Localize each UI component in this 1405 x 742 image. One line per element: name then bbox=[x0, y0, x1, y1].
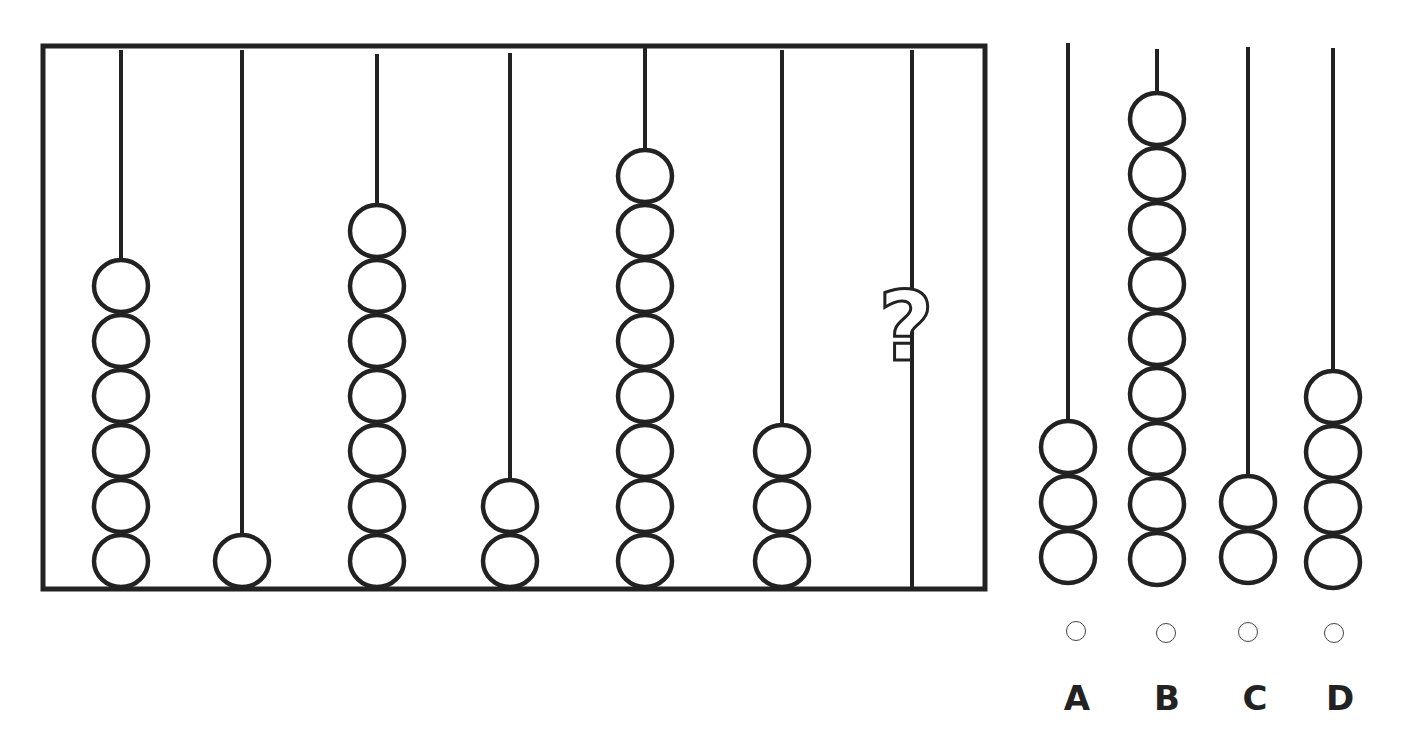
option-c-label: C bbox=[1235, 678, 1275, 718]
bead bbox=[1221, 531, 1275, 583]
bead bbox=[94, 260, 148, 312]
abacus-drawing: ? bbox=[0, 0, 1405, 742]
bead bbox=[618, 425, 672, 477]
option-b-label: B bbox=[1147, 678, 1187, 718]
bead bbox=[618, 315, 672, 367]
option-b-radio[interactable] bbox=[1156, 623, 1176, 643]
option-c-radio[interactable] bbox=[1238, 622, 1258, 642]
bead bbox=[1130, 478, 1184, 530]
bead bbox=[1306, 536, 1360, 588]
bead bbox=[1130, 93, 1184, 145]
bead bbox=[618, 150, 672, 202]
bead bbox=[755, 480, 809, 532]
bead bbox=[1041, 476, 1095, 528]
bead bbox=[1306, 371, 1360, 423]
bead bbox=[1130, 258, 1184, 310]
bead bbox=[350, 205, 404, 257]
bead bbox=[755, 425, 809, 477]
bead bbox=[1041, 421, 1095, 473]
bead bbox=[350, 480, 404, 532]
bead bbox=[350, 315, 404, 367]
bead bbox=[94, 480, 148, 532]
bead bbox=[350, 370, 404, 422]
question-mark: ? bbox=[878, 271, 934, 383]
bead bbox=[1221, 476, 1275, 528]
option-a-label: A bbox=[1057, 678, 1097, 718]
bead bbox=[618, 205, 672, 257]
bead bbox=[618, 480, 672, 532]
bead bbox=[755, 535, 809, 587]
bead bbox=[1306, 426, 1360, 478]
bead bbox=[1130, 203, 1184, 255]
bead bbox=[1130, 148, 1184, 200]
bead bbox=[350, 260, 404, 312]
option-d-radio[interactable] bbox=[1324, 623, 1344, 643]
bead bbox=[483, 535, 537, 587]
bead bbox=[94, 370, 148, 422]
bead bbox=[483, 480, 537, 532]
bead bbox=[1130, 423, 1184, 475]
bead bbox=[1130, 313, 1184, 365]
bead bbox=[94, 425, 148, 477]
bead bbox=[94, 535, 148, 587]
bead bbox=[1306, 481, 1360, 533]
bead bbox=[215, 535, 269, 587]
bead bbox=[1130, 368, 1184, 420]
bead bbox=[618, 260, 672, 312]
bead bbox=[350, 535, 404, 587]
bead bbox=[1041, 531, 1095, 583]
bead bbox=[618, 370, 672, 422]
bead bbox=[350, 425, 404, 477]
bead bbox=[618, 535, 672, 587]
option-a-radio[interactable] bbox=[1066, 621, 1086, 641]
bead bbox=[1130, 533, 1184, 585]
option-d-label: D bbox=[1320, 678, 1360, 718]
abacus-puzzle: ? bbox=[0, 0, 1405, 742]
bead bbox=[94, 315, 148, 367]
